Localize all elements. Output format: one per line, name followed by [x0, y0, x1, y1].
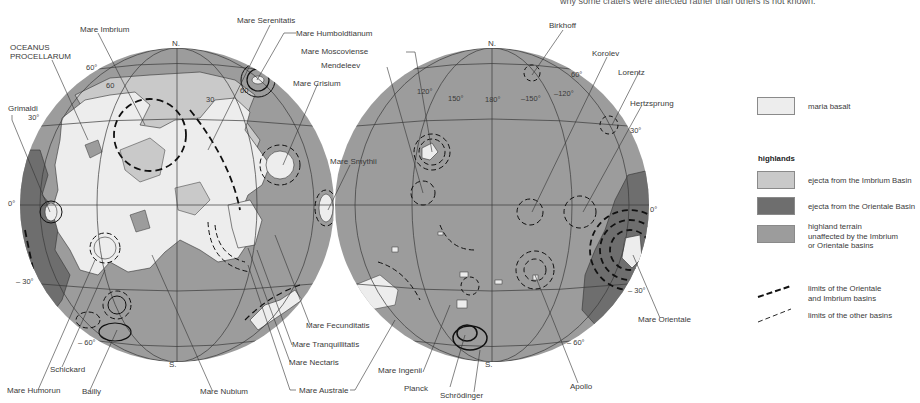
near-side-globe	[10, 48, 337, 362]
latitude-label: 60°	[86, 64, 97, 72]
legend-highlands-heading: highlands	[758, 154, 795, 163]
label-mare-fecunditatis: Mare Fecunditatis	[306, 322, 370, 330]
label-apollo: Apollo	[570, 383, 592, 391]
label-hertzsprung: Hertzsprung	[630, 100, 674, 108]
label-korolev: Korolev	[592, 50, 619, 58]
longitude-label: 180°	[485, 96, 501, 104]
label-grimaldi: Grimaldi	[8, 105, 38, 113]
swatch-maria-basalt	[757, 97, 795, 115]
label-mare-orientale: Mare Orientale	[638, 316, 691, 324]
legend-highland-terrain-label: highland terrain unaffected by the Imbri…	[808, 222, 898, 251]
latitude-label: 60°	[571, 71, 582, 79]
swatch-orientale-ejecta	[757, 197, 795, 215]
swatch-highland-terrain	[757, 225, 795, 243]
legend-orientale-imbrium-limits-label: limits of the Orientale and Imbrium basi…	[808, 284, 881, 303]
label-mare-smythii: Mare Smythii	[330, 158, 377, 166]
label-mare-nectaris: Mare Nectaris	[289, 359, 339, 367]
legend-maria-basalt-label: maria basalt	[808, 102, 850, 112]
moon-geology-diagram: why some craters were affected rather th…	[0, 0, 920, 403]
label-planck: Planck	[404, 385, 428, 393]
longitude-label: 60	[106, 82, 114, 90]
legend: maria basalt highlands ejecta from the I…	[740, 0, 920, 403]
label-oceanus-procellarum: OCEANUS PROCELLARUM	[10, 44, 71, 62]
latitude-label: 30°	[28, 114, 39, 122]
label-mendeleev: Mendeleev	[321, 62, 360, 70]
label-birkhoff: Birkhoff	[549, 22, 576, 30]
longitude-label: 150°	[448, 95, 464, 103]
latitude-label: – 60°	[78, 339, 96, 347]
far-side-globe	[335, 48, 670, 362]
label-mare-moscoviense: Mare Moscoviense	[301, 48, 368, 56]
latitude-label: – 30°	[16, 278, 34, 286]
label-mare-ingenii: Mare Ingenii	[378, 367, 422, 375]
north-pole-label: N.	[488, 40, 496, 48]
longitude-label: –150°	[521, 95, 541, 103]
label-mare-humboldtianum: Mare Humboldtianum	[296, 30, 372, 38]
latitude-label: 30°	[630, 127, 641, 135]
legend-other-basins-limits-label: limits of the other basins	[808, 311, 892, 321]
label-mare-australe: Mare Australe	[299, 387, 348, 395]
latitude-label: – 60°	[567, 339, 585, 347]
latitude-label: – 30°	[628, 287, 646, 295]
label-bailly: Bailly	[82, 388, 101, 396]
label-mare-crisium: Mare Crisium	[293, 80, 341, 88]
longitude-label: –120°	[554, 90, 574, 98]
label-mare-imbrium: Mare Imbrium	[80, 26, 129, 34]
longitude-label: 120°	[417, 88, 433, 96]
latitude-label: 0°	[8, 200, 15, 208]
north-pole-label: N.	[172, 40, 180, 48]
legend-imbrium-ejecta-label: ejecta from the Imbrium Basin	[808, 176, 912, 186]
label-schrodinger: Schrödinger	[440, 392, 483, 400]
label-lorentz: Lorentz	[618, 69, 645, 77]
label-schickard: Schickard	[50, 366, 85, 374]
longitude-label: 60	[240, 87, 248, 95]
south-pole-label: S.	[169, 361, 177, 369]
label-mare-humorun: Mare Humorun	[7, 387, 60, 395]
label-mare-nubium: Mare Nubium	[200, 388, 248, 396]
swatch-imbrium-ejecta	[757, 171, 795, 189]
legend-orientale-ejecta-label: ejecta from the Orientale Basin	[808, 202, 915, 212]
south-pole-label: S.	[485, 361, 493, 369]
label-mare-serenitatis: Mare Serenitatis	[237, 17, 295, 25]
longitude-label: 30	[206, 96, 214, 104]
label-mare-tranquillitatis: Mare Tranquillitatis	[292, 341, 359, 349]
latitude-label: 0°	[650, 206, 657, 214]
